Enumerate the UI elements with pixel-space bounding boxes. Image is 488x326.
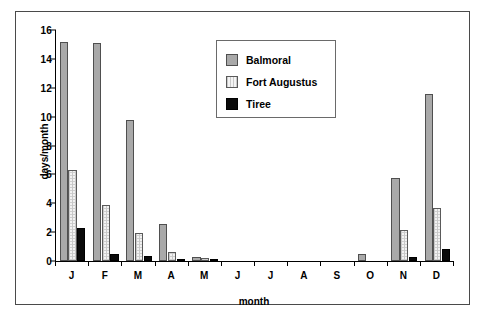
x-tick-label-9: O — [366, 270, 374, 281]
bar-tiree-M-2 — [144, 256, 152, 261]
legend-label-tiree: Tiree — [246, 98, 271, 110]
bar-tiree-N-10 — [409, 257, 417, 261]
x-tick-label-5: J — [235, 270, 241, 281]
legend-item-tiree: Tiree — [226, 93, 335, 115]
bar-balmoral-A-3 — [159, 224, 167, 261]
bar-balmoral-D-11 — [425, 94, 433, 261]
x-tick-mark — [88, 261, 89, 266]
x-tick-mark — [387, 261, 388, 266]
bar-fort-augustus-F-1 — [102, 205, 110, 261]
bar-group-J-0 — [55, 30, 88, 261]
x-tick-label-10: N — [400, 270, 407, 281]
bar-group-D-11 — [420, 30, 453, 261]
x-tick-label-0: J — [69, 270, 75, 281]
bar-tiree-F-1 — [110, 254, 118, 261]
x-tick-mark — [121, 261, 122, 266]
chart-legend: Balmoral Fort Augustus Tiree — [216, 40, 336, 118]
bar-balmoral-N-10 — [391, 178, 399, 261]
x-tick-label-3: A — [167, 270, 174, 281]
x-tick-mark — [453, 261, 454, 266]
bar-balmoral-M-2 — [126, 120, 134, 261]
legend-item-balmoral: Balmoral — [226, 49, 335, 71]
x-tick-label-8: S — [334, 270, 341, 281]
x-tick-label-7: A — [300, 270, 307, 281]
bar-fort-augustus-M-2 — [135, 233, 143, 261]
x-tick-label-4: M — [200, 270, 208, 281]
bar-balmoral-O-9 — [358, 254, 366, 261]
y-axis-title: days/month — [39, 92, 50, 212]
bar-tiree-D-11 — [442, 249, 450, 261]
x-tick-mark — [155, 261, 156, 266]
bar-group-F-1 — [88, 30, 121, 261]
x-tick-label-2: M — [134, 270, 142, 281]
x-tick-mark — [287, 261, 288, 266]
x-tick-mark — [320, 261, 321, 266]
x-tick-label-11: D — [433, 270, 440, 281]
legend-swatch-tiree — [226, 98, 238, 110]
bar-fort-augustus-M-4 — [201, 258, 209, 261]
bar-balmoral-J-0 — [60, 42, 68, 261]
bar-tiree-A-3 — [177, 259, 185, 261]
x-tick-label-1: F — [102, 270, 108, 281]
legend-label-balmoral: Balmoral — [246, 54, 291, 66]
x-tick-mark — [221, 261, 222, 266]
x-tick-mark — [188, 261, 189, 266]
bar-fort-augustus-A-3 — [168, 252, 176, 261]
legend-label-fort-augustus: Fort Augustus — [246, 76, 317, 88]
chart-canvas: 0246810121416 days/month JFMAMJJASOND mo… — [0, 0, 488, 326]
bar-group-N-10 — [387, 30, 420, 261]
bar-fort-augustus-D-11 — [433, 208, 441, 261]
bar-fort-augustus-N-10 — [400, 230, 408, 261]
bar-fort-augustus-J-0 — [68, 170, 76, 261]
x-tick-mark — [254, 261, 255, 266]
bar-tiree-J-0 — [77, 228, 85, 261]
bar-group-O-9 — [354, 30, 387, 261]
bar-tiree-M-4 — [210, 259, 218, 261]
legend-swatch-balmoral — [226, 54, 238, 66]
x-axis-title: month — [55, 296, 453, 307]
legend-item-fort-augustus: Fort Augustus — [226, 71, 335, 93]
bar-group-M-2 — [121, 30, 154, 261]
x-tick-label-6: J — [268, 270, 274, 281]
x-tick-mark — [55, 261, 56, 266]
bar-balmoral-M-4 — [192, 257, 200, 261]
x-tick-mark — [354, 261, 355, 266]
x-tick-mark — [420, 261, 421, 266]
bar-balmoral-F-1 — [93, 43, 101, 261]
legend-swatch-fort-augustus — [226, 76, 238, 88]
bar-group-A-3 — [155, 30, 188, 261]
